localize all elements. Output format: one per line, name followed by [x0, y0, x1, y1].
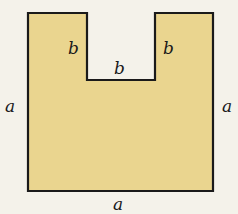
- label-bottom-side: a: [113, 194, 123, 214]
- label-notch-right: b: [163, 38, 174, 58]
- label-right-side: a: [222, 96, 232, 116]
- u-shape-diagram: b b b a a a: [0, 0, 238, 214]
- label-left-side: a: [5, 96, 15, 116]
- label-notch-bottom: b: [114, 58, 125, 78]
- label-notch-left: b: [68, 38, 79, 58]
- u-shape-figure: [28, 13, 213, 191]
